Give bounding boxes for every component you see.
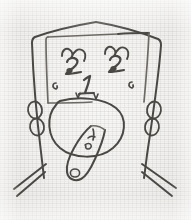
tongue: [67, 126, 105, 180]
ink-layer: [0, 0, 191, 220]
tongue-tip-loop: [70, 169, 79, 177]
right-eye: [105, 47, 128, 72]
left-cheek-mark: [53, 83, 57, 89]
nose: [79, 76, 94, 94]
right-cheek-mark: [129, 82, 133, 88]
tongue-marks: [85, 129, 95, 149]
right-ear: [144, 101, 162, 137]
left-whiskers: [14, 164, 46, 196]
left-eye: [62, 49, 85, 74]
forehead-panel: [46, 33, 149, 103]
right-whiskers: [142, 164, 176, 196]
sketch-canvas: Hand-drawn face sketch 1 2 3 6 6 4 5: [0, 0, 191, 220]
